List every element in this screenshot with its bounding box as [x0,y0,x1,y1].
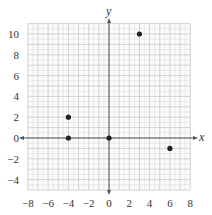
y-tick-label: 6 [14,70,20,82]
y-axis-up-arrow-icon [107,18,111,23]
y-tick-label: 8 [14,49,20,61]
y-tick-label: 4 [14,90,20,102]
x-tick-label: −6 [42,197,54,209]
x-tick-labels: −8−6−4−202468 [22,197,194,209]
x-tick-label: 6 [167,197,173,209]
x-tick-label: 0 [106,197,112,209]
y-axis-label: y [105,4,112,18]
y-axis-down-arrow-icon [107,190,111,195]
x-axis-right-arrow-icon [193,136,198,140]
data-point [106,135,111,140]
x-tick-label: −4 [63,197,75,209]
x-axis-left-arrow-icon [19,136,24,140]
coordinate-plane: −8−6−4−202468 −4−20246810 x y [0,0,212,215]
data-point [66,115,71,120]
x-tick-label: −8 [22,197,34,209]
x-tick-label: 8 [187,197,193,209]
y-tick-label: −2 [7,153,19,165]
y-tick-label: 0 [14,132,20,144]
data-point [137,31,142,36]
y-tick-label: 10 [8,28,20,40]
x-tick-label: 2 [127,197,133,209]
y-tick-labels: −4−20246810 [7,28,19,186]
x-axis-label: x [198,130,205,144]
y-tick-label: 2 [14,111,20,123]
y-tick-label: −4 [7,174,19,186]
x-tick-label: 4 [147,197,153,209]
data-point [167,146,172,151]
data-point [66,135,71,140]
x-tick-label: −2 [83,197,95,209]
